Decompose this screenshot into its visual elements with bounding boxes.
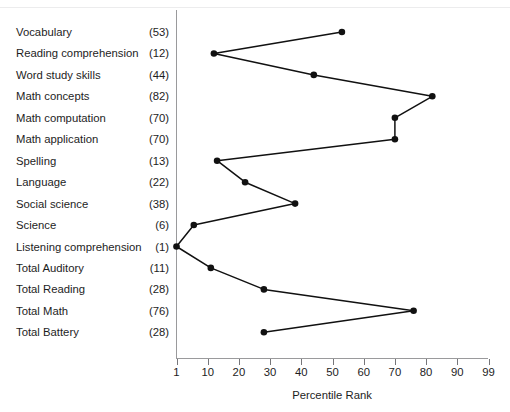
series-markers <box>173 29 435 336</box>
data-point-marker <box>429 93 436 100</box>
data-point-marker <box>339 29 346 36</box>
data-point-marker <box>191 222 198 229</box>
data-point-marker <box>214 157 221 164</box>
data-point-marker <box>292 200 299 207</box>
data-point-marker <box>311 72 318 79</box>
data-point-marker <box>208 265 215 272</box>
series-line <box>177 32 433 332</box>
chart-page: Vocabulary(53)Reading comprehension(12)W… <box>0 0 510 412</box>
profile-line-chart <box>0 0 510 412</box>
data-point-marker <box>211 50 218 57</box>
data-point-marker <box>173 243 180 250</box>
data-point-marker <box>242 179 249 186</box>
data-point-marker <box>392 136 399 143</box>
data-point-marker <box>261 286 268 293</box>
data-point-marker <box>261 329 268 336</box>
data-point-marker <box>392 115 399 122</box>
data-point-marker <box>410 308 417 315</box>
